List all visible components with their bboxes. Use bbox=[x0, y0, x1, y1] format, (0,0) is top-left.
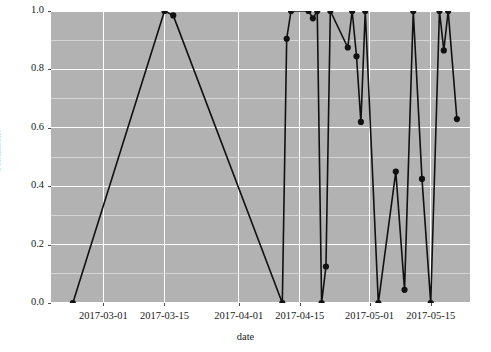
y-axis-title: sentiment bbox=[0, 130, 2, 171]
plot-panel bbox=[51, 11, 470, 303]
data-point bbox=[279, 300, 285, 303]
data-point bbox=[284, 36, 290, 42]
data-point bbox=[358, 119, 364, 125]
data-point bbox=[161, 11, 167, 14]
data-point bbox=[375, 300, 381, 303]
x-tick-label-2017-04-01: 2017-04-01 bbox=[214, 310, 263, 321]
y-tick-mark bbox=[48, 11, 51, 12]
data-point bbox=[401, 287, 407, 293]
x-tick-label-2017-03-01: 2017-03-01 bbox=[79, 310, 128, 321]
y-tick-label-0.2: 0.2 bbox=[31, 238, 44, 249]
y-tick-label-0.6: 0.6 bbox=[31, 121, 44, 132]
y-tick-label-0.4: 0.4 bbox=[31, 179, 44, 190]
x-tick-label-2017-05-15: 2017-05-15 bbox=[406, 310, 455, 321]
data-point bbox=[393, 169, 399, 175]
data-point bbox=[419, 176, 425, 182]
x-tick-mark bbox=[103, 303, 104, 306]
x-tick-mark bbox=[239, 303, 240, 306]
data-point bbox=[410, 11, 416, 14]
data-point bbox=[345, 44, 351, 50]
x-axis-title: date bbox=[0, 331, 491, 342]
data-point bbox=[353, 53, 359, 59]
y-tick-mark bbox=[48, 303, 51, 304]
data-point bbox=[349, 11, 355, 14]
data-point bbox=[454, 116, 460, 122]
series-line bbox=[73, 11, 457, 303]
data-point bbox=[319, 300, 325, 303]
x-tick-mark bbox=[370, 303, 371, 306]
x-tick-label-2017-03-15: 2017-03-15 bbox=[140, 310, 189, 321]
data-point bbox=[445, 11, 451, 14]
data-point bbox=[310, 15, 316, 21]
y-tick-label-0.8: 0.8 bbox=[31, 62, 44, 73]
data-point bbox=[323, 263, 329, 269]
y-tick-mark bbox=[48, 128, 51, 129]
sentiment-over-time-chart: 0.00.20.40.60.81.0 2017-03-012017-03-152… bbox=[0, 0, 491, 352]
data-point bbox=[362, 11, 368, 14]
x-tick-mark bbox=[431, 303, 432, 306]
y-tick-mark bbox=[48, 245, 51, 246]
data-layer bbox=[51, 11, 470, 303]
data-point bbox=[327, 11, 333, 14]
data-point bbox=[441, 47, 447, 53]
x-tick-label-2017-04-15: 2017-04-15 bbox=[275, 310, 324, 321]
y-tick-label-0.0: 0.0 bbox=[31, 296, 44, 307]
x-tick-mark bbox=[300, 303, 301, 306]
y-tick-label-1.0: 1.0 bbox=[31, 4, 44, 15]
y-tick-mark bbox=[48, 186, 51, 187]
x-tick-label-2017-05-01: 2017-05-01 bbox=[345, 310, 394, 321]
data-point bbox=[70, 300, 76, 303]
y-tick-mark bbox=[48, 69, 51, 70]
data-point bbox=[170, 12, 176, 18]
x-tick-mark bbox=[164, 303, 165, 306]
data-point bbox=[436, 11, 442, 14]
data-point bbox=[288, 11, 294, 14]
line-series-sentiment bbox=[51, 11, 470, 303]
